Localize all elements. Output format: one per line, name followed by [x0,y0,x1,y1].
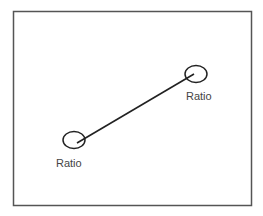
node-upper-label: Ratio [186,90,212,102]
connector-line [77,74,194,143]
node-lower: Ratio [56,132,85,170]
circle-node-icon [185,66,207,83]
frame-border [14,12,252,206]
node-lower-label: Ratio [56,157,82,169]
diagram-canvas: Ratio Ratio [0,0,263,216]
node-upper: Ratio [185,66,212,103]
